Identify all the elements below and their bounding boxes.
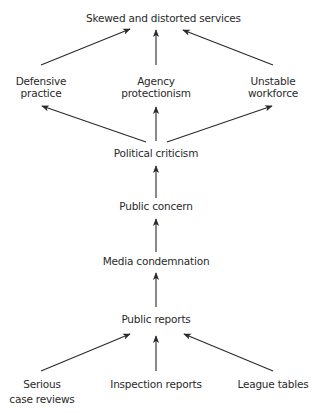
node-label: Public concern — [119, 200, 192, 212]
node-skewed-services: Skewed and distorted services — [86, 12, 228, 24]
node-unstable-workforce: Unstable workforce — [243, 75, 303, 99]
arrow-serious-to-reports — [41, 334, 130, 371]
node-label-line2: protectionism — [116, 87, 196, 99]
node-label-line2: case reviews — [8, 393, 76, 405]
node-label-line1: Agency — [116, 75, 196, 87]
node-inspection-reports: Inspection reports — [106, 378, 206, 390]
node-media-condemnation: Media condemnation — [96, 255, 216, 267]
arrow-defensive-to-skewed — [41, 29, 130, 65]
node-serious-case-reviews: Serious case reviews — [8, 378, 76, 405]
node-label: Media condemnation — [103, 255, 210, 267]
node-public-reports: Public reports — [111, 313, 201, 325]
node-label: Political criticism — [114, 147, 198, 159]
node-label: League tables — [237, 378, 308, 390]
arrow-political-to-unstable — [167, 106, 272, 142]
node-label-line2: workforce — [243, 87, 303, 99]
node-league-tables: League tables — [236, 378, 310, 390]
node-label-line2: practice — [10, 87, 72, 99]
node-defensive-practice: Defensive practice — [10, 75, 72, 99]
arrow-league-to-reports — [184, 334, 273, 371]
node-label: Public reports — [121, 313, 190, 325]
node-label-line1: Serious — [8, 378, 76, 390]
node-label: Skewed and distorted services — [86, 12, 241, 24]
arrow-unstable-to-skewed — [183, 30, 273, 65]
node-public-concern: Public concern — [111, 200, 201, 212]
arrow-political-to-defensive — [42, 106, 146, 142]
node-political-criticism: Political criticism — [106, 147, 206, 159]
node-agency-protectionism: Agency protectionism — [116, 75, 196, 99]
node-label-line1: Unstable — [243, 75, 303, 87]
node-label-line1: Defensive — [10, 75, 72, 87]
node-label: Inspection reports — [110, 378, 202, 390]
